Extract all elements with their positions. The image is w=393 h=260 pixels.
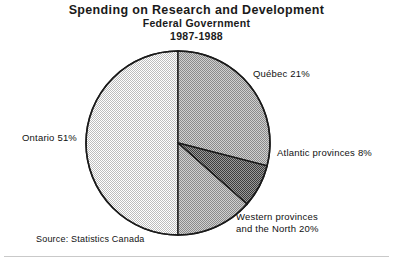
pie-chart-figure: Spending on Research and Development Fed… (0, 0, 393, 260)
slice-label-ontario: Ontario 51% (22, 132, 77, 144)
slice-label-quebec: Québec 21% (253, 68, 310, 80)
slice-label-western-line2: and the North 20% (236, 223, 319, 234)
bottom-divider (4, 256, 389, 257)
source-note: Source: Statistics Canada (36, 234, 145, 244)
pie-slice-ontario (86, 51, 178, 235)
slice-label-atlantic: Atlantic provinces 8% (277, 147, 372, 159)
slice-label-western-line1: Western provinces (236, 211, 318, 222)
slice-label-western: Western provinces and the North 20% (236, 211, 386, 234)
